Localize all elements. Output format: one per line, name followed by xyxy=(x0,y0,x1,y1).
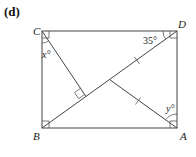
rectangle-diagram: (d) C D B A x° 35° y° xyxy=(0,0,196,157)
angle-arc-x xyxy=(42,41,49,43)
vertex-label-d: D xyxy=(177,18,186,30)
perpendicular-from-c xyxy=(42,31,86,97)
part-label: (d) xyxy=(4,4,20,19)
right-angle-mark-foot xyxy=(75,88,85,98)
angle-label-y: y° xyxy=(165,103,174,114)
angle-label-x: x° xyxy=(41,49,50,60)
angle-arc-d xyxy=(163,31,166,39)
vertex-label-c: C xyxy=(33,25,41,37)
vertex-label-a: A xyxy=(179,130,187,142)
angle-arc-y xyxy=(166,114,177,120)
vertex-label-b: B xyxy=(33,130,40,142)
angle-label-35: 35° xyxy=(143,35,157,46)
